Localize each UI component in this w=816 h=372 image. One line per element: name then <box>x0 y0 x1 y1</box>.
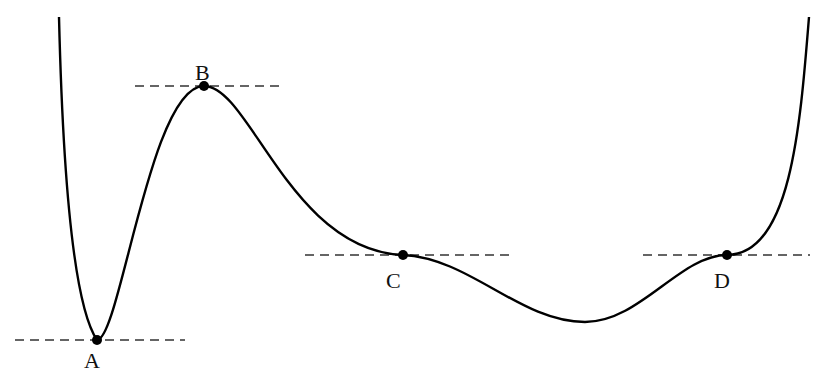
point-a <box>92 335 102 345</box>
label-d: D <box>714 270 730 292</box>
label-c: C <box>386 270 401 292</box>
energy-curve <box>59 17 809 340</box>
point-d <box>722 250 732 260</box>
tangent-lines <box>15 86 810 340</box>
label-b: B <box>195 62 210 84</box>
point-c <box>398 250 408 260</box>
label-a: A <box>84 350 100 372</box>
diagram-canvas <box>0 0 816 372</box>
energy-diagram: A B C D <box>0 0 816 372</box>
